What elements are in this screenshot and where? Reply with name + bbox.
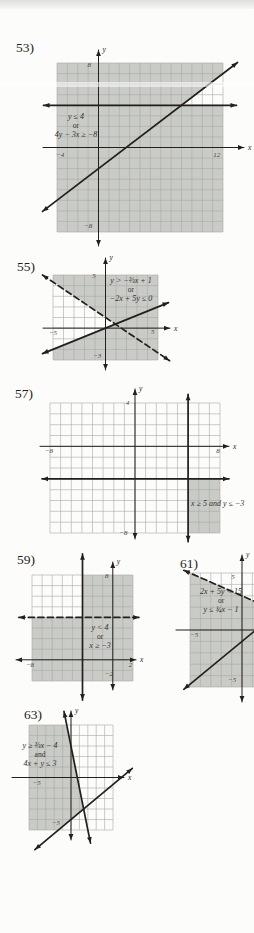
y-axis-arrow (103, 258, 108, 264)
conjunction-text: and (23, 750, 58, 759)
y-axis-arrow (110, 684, 115, 690)
problem-63-number: 63) (24, 707, 42, 723)
y-axis-arrow (69, 711, 74, 717)
x-axis-label: x (247, 143, 252, 152)
x-axis-arrow (164, 326, 170, 331)
problem-53-inequalities: y ≤ 4or4y − 3x ≥ −8 (55, 112, 97, 139)
inequality-text: y ≤ ¾x − 1 (200, 605, 242, 614)
conjunction-text: or (110, 285, 152, 294)
y-axis-label: y (116, 557, 121, 566)
problem-53-number: 53) (16, 40, 34, 56)
problem-61-figure: y5−5−5 2x + 5y < 15ory ≤ ¾x − 1 (150, 540, 254, 705)
boundary-line-arrow (44, 103, 50, 108)
boundary-line-arrow (162, 303, 169, 308)
boundary-line-arrow (133, 615, 139, 620)
x-axis-arrow (223, 444, 229, 449)
x-axis-label: x (127, 773, 132, 782)
y-axis-label: y (109, 253, 114, 262)
tick-label: −8 (119, 529, 128, 537)
y-axis-arrow (96, 240, 101, 246)
scan-artifact-line (0, 82, 254, 87)
tick-label: 5 (92, 272, 96, 280)
y-axis-arrow (133, 389, 138, 395)
y-axis-label: y (102, 45, 107, 54)
problem-57-inequalities: x ≥ 5 and y ≤ −3 (191, 499, 244, 508)
boundary-line-arrow (42, 476, 48, 481)
tick-label: −5 (190, 631, 199, 639)
inequality-text: 4y − 3x ≥ −8 (55, 130, 97, 139)
problem-61-inequalities: 2x + 5y < 15ory ≤ ¾x − 1 (200, 587, 242, 614)
boundary-line-arrow (43, 349, 50, 354)
tick-label: −8 (45, 447, 54, 455)
tick-label: −5 (52, 819, 61, 827)
inequality-text: −2x + 5y ≤ 0 (110, 294, 152, 303)
inequality-text: y > −⅔x + 1 (110, 276, 152, 285)
y-axis-arrow (240, 696, 245, 702)
y-axis-arrow (103, 364, 108, 370)
inequality-text: y < 4 (89, 623, 110, 632)
y-axis-arrow (133, 533, 138, 539)
boundary-line-arrow (186, 394, 191, 400)
problem-57-number: 57) (15, 386, 33, 402)
boundary-line-arrow (223, 476, 229, 481)
problem-57-graph: xy4−88−8 (20, 380, 254, 543)
x-axis-label: x (173, 324, 178, 333)
x-axis-label: x (232, 442, 237, 451)
problem-61-graph: y5−5−5 (150, 540, 254, 705)
tick-label: −5 (228, 676, 237, 684)
problem-63-graph: xy−5−5 (8, 706, 148, 870)
inequality-text: x ≥ 5 and y ≤ −3 (191, 499, 244, 508)
tick-label: 5 (151, 328, 155, 336)
boundary-line-arrow (80, 554, 85, 560)
problem-61-number: 61) (180, 556, 198, 572)
tick-label: −8 (26, 661, 35, 669)
textbook-page: xy8−412−8 y ≤ 4or4y − 3x ≥ −8 xy5−55−3 y… (0, 0, 254, 933)
tick-label: −5 (49, 329, 58, 337)
problem-59-inequalities: y < 4orx ≥ −3 (89, 623, 110, 650)
inequality-text: y ≥ ⅔x − 4 (23, 741, 58, 750)
conjunction-text: or (89, 632, 110, 641)
boundary-line-arrow (80, 694, 85, 700)
tick-label: 5 (231, 573, 235, 581)
problem-55-figure: xy5−55−3 y > −⅔x + 1or−2x + 5y ≤ 0 (30, 252, 180, 374)
y-axis-arrow (69, 834, 74, 840)
conjunction-text: or (55, 121, 97, 130)
y-axis-label: y (74, 706, 79, 715)
inequality-text: x ≥ −3 (89, 641, 110, 650)
tick-label: −2 (105, 670, 114, 678)
problem-63-inequalities: y ≥ ⅔x − 4and4x + y ≤ 3 (23, 741, 58, 768)
tick-label: −4 (56, 151, 65, 159)
tick-label: 8 (216, 447, 220, 455)
boundary-line-arrow (19, 615, 25, 620)
x-axis-arrow (238, 145, 244, 150)
y-axis-label: y (138, 384, 143, 393)
inequality-text: 4x + y ≤ 3 (23, 759, 58, 768)
tick-label: −5 (32, 779, 41, 787)
problem-55-number: 55) (17, 259, 35, 275)
scan-artifact-top (0, 0, 254, 9)
inequality-text: y ≤ 4 (55, 112, 97, 121)
y-axis-arrow (96, 50, 101, 56)
boundary-line-arrow (231, 103, 237, 108)
problem-59-number: 59) (17, 552, 35, 568)
problem-63-figure: xy−5−5 y ≥ ⅔x − 4and4x + y ≤ 3 (8, 706, 148, 870)
tick-label: −8 (84, 222, 93, 230)
x-axis-label: x (139, 655, 144, 664)
y-axis-arrow (110, 562, 115, 568)
tick-label: −3 (93, 352, 102, 360)
problem-53-figure: xy8−412−8 y ≤ 4or4y − 3x ≥ −8 (8, 40, 252, 252)
y-axis-arrow (240, 555, 245, 561)
tick-label: 2 (129, 661, 133, 669)
problem-55-graph: xy5−55−3 (30, 252, 180, 374)
x-axis-arrow (16, 657, 22, 662)
tick-label: 8 (87, 61, 91, 69)
tick-label: 12 (213, 151, 221, 159)
problem-55-inequalities: y > −⅔x + 1or−2x + 5y ≤ 0 (110, 276, 152, 303)
y-axis-label: y (245, 550, 250, 559)
problem-53-graph: xy8−412−8 (8, 40, 252, 252)
tick-label: 8 (105, 572, 109, 580)
boundary-line-arrow (43, 275, 49, 280)
tick-label: 4 (126, 399, 130, 407)
conjunction-text: or (200, 596, 242, 605)
problem-57-figure: xy4−88−8 x ≥ 5 and y ≤ −3 (20, 380, 254, 543)
